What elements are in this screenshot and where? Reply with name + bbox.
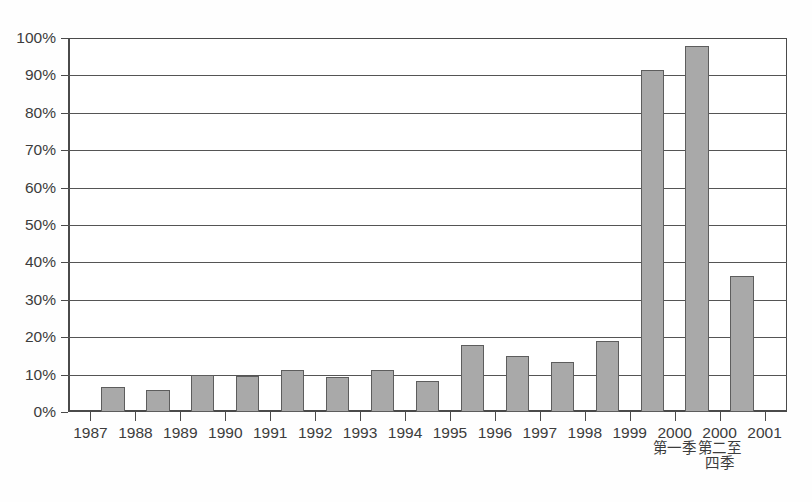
x-axis-tick-mark — [225, 412, 226, 421]
y-axis-tick-mark — [61, 412, 68, 413]
bar — [101, 387, 124, 412]
x-axis-tick-label-year: 1988 — [118, 424, 152, 441]
x-axis-tick-label-year: 1995 — [433, 424, 467, 441]
bar — [191, 375, 214, 412]
x-axis-tick-label-year: 2000 — [702, 424, 736, 441]
x-axis-tick-mark — [270, 412, 271, 421]
y-axis-tick-label: 80% — [2, 105, 56, 121]
y-axis-tick-label: 90% — [2, 67, 56, 83]
bar — [730, 276, 753, 413]
x-axis-tick-label-year: 1987 — [73, 424, 107, 441]
y-axis-tick-label: 100% — [2, 30, 56, 46]
x-axis-tick-mark — [180, 412, 181, 421]
y-axis-tick-mark — [61, 337, 68, 338]
x-axis-tick-mark — [765, 412, 766, 421]
x-axis-tick-label: 2001 — [738, 425, 791, 441]
x-axis-tick-label-year: 1998 — [568, 424, 602, 441]
y-axis-tick-mark — [61, 225, 68, 226]
bar — [236, 376, 259, 412]
x-axis-tick-sublabel-line2: 四季 — [693, 456, 746, 471]
y-axis-tick-label: 60% — [2, 180, 56, 196]
x-axis-tick-label-year: 1989 — [163, 424, 197, 441]
x-axis-tick-label-year: 1990 — [208, 424, 242, 441]
x-axis-tick-mark — [405, 412, 406, 421]
x-axis-tick-mark — [675, 412, 676, 421]
x-axis-tick-label-year: 1994 — [388, 424, 422, 441]
x-axis-tick-label-year: 1997 — [523, 424, 557, 441]
y-axis-tick-label: 0% — [2, 404, 56, 420]
bar — [596, 341, 619, 412]
bar — [461, 345, 484, 412]
bar — [506, 356, 529, 412]
bar — [371, 370, 394, 412]
y-axis-tick-mark — [61, 375, 68, 376]
x-axis-tick-label-year: 1992 — [298, 424, 332, 441]
x-axis-tick-mark — [630, 412, 631, 421]
x-axis-tick-label-year: 1996 — [478, 424, 512, 441]
bar — [146, 390, 169, 412]
y-axis-tick-mark — [61, 113, 68, 114]
y-axis-tick-mark — [61, 150, 68, 151]
y-axis-tick-label: 30% — [2, 292, 56, 308]
bar — [416, 381, 439, 412]
y-axis-tick-label: 10% — [2, 367, 56, 383]
x-axis-tick-mark — [495, 412, 496, 421]
x-axis-tick-label-year: 2000 — [657, 424, 691, 441]
y-axis-tick-mark — [61, 300, 68, 301]
x-axis-tick-mark — [450, 412, 451, 421]
x-axis-tick-label-year: 1993 — [343, 424, 377, 441]
y-axis-tick-mark — [61, 38, 68, 39]
y-axis-tick-label: 20% — [2, 329, 56, 345]
y-axis-tick-mark — [61, 188, 68, 189]
bar — [641, 70, 664, 412]
bar — [281, 370, 304, 412]
bar — [326, 377, 349, 412]
y-axis-tick-label: 40% — [2, 254, 56, 270]
bar-chart: 0%10%20%30%40%50%60%70%80%90%100% 198719… — [0, 0, 812, 502]
y-axis-tick-mark — [61, 262, 68, 263]
x-axis-tick-label-year: 1999 — [612, 424, 646, 441]
y-axis-tick-mark — [61, 75, 68, 76]
x-axis-tick-mark — [540, 412, 541, 421]
bar — [551, 362, 574, 412]
bar — [685, 46, 708, 412]
bars-layer — [68, 38, 787, 412]
x-axis-tick-mark — [720, 412, 721, 421]
x-axis-tick-label-year: 1991 — [253, 424, 287, 441]
x-axis-tick-mark — [135, 412, 136, 421]
x-axis-tick-mark — [585, 412, 586, 421]
x-axis-tick-mark — [90, 412, 91, 421]
x-axis-tick-mark — [360, 412, 361, 421]
y-axis-tick-label: 50% — [2, 217, 56, 233]
x-axis-tick-label-year: 2001 — [747, 424, 781, 441]
y-axis-tick-label: 70% — [2, 142, 56, 158]
x-axis-tick-sublabel: 第二至 — [693, 441, 746, 456]
x-axis-tick-mark — [315, 412, 316, 421]
